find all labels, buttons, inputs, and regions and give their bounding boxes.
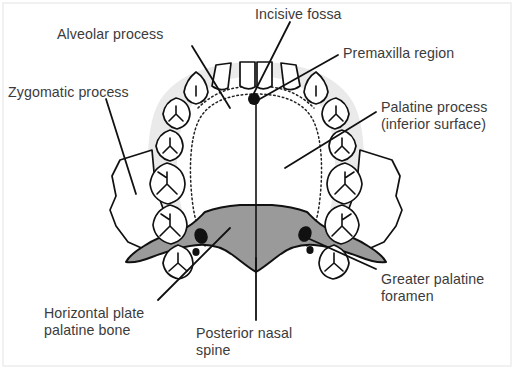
label-posterior-nasal-spine-line1: Posterior nasal [196,325,292,342]
label-greater-palatine-foramen-line2: foramen [381,288,434,305]
label-greater-palatine-foramen-line1: Greater palatine [381,271,484,288]
lesser-palatine-foramen-left [192,248,199,256]
lesser-palatine-foramen-right [306,246,313,254]
label-palatine-process-line2: (inferior surface) [381,116,486,133]
label-incisive-fossa: Incisive fossa [255,6,342,23]
label-horizontal-plate-line2: palatine bone [44,322,131,339]
tooth-central-incisor-right [257,62,272,89]
label-alveolar-process: Alveolar process [57,26,163,43]
label-horizontal-plate-line1: Horizontal plate [44,305,144,322]
tooth-lateral-incisor-left [212,63,231,90]
label-premaxilla-region: Premaxilla region [343,45,454,62]
label-zygomatic-process: Zygomatic process [8,84,129,101]
label-palatine-process-line1: Palatine process [381,99,488,116]
anatomical-figure: Alveolar process Zygomatic process Incis… [0,0,514,369]
label-posterior-nasal-spine-line2: spine [196,342,230,359]
tooth-central-incisor-left [240,62,255,89]
